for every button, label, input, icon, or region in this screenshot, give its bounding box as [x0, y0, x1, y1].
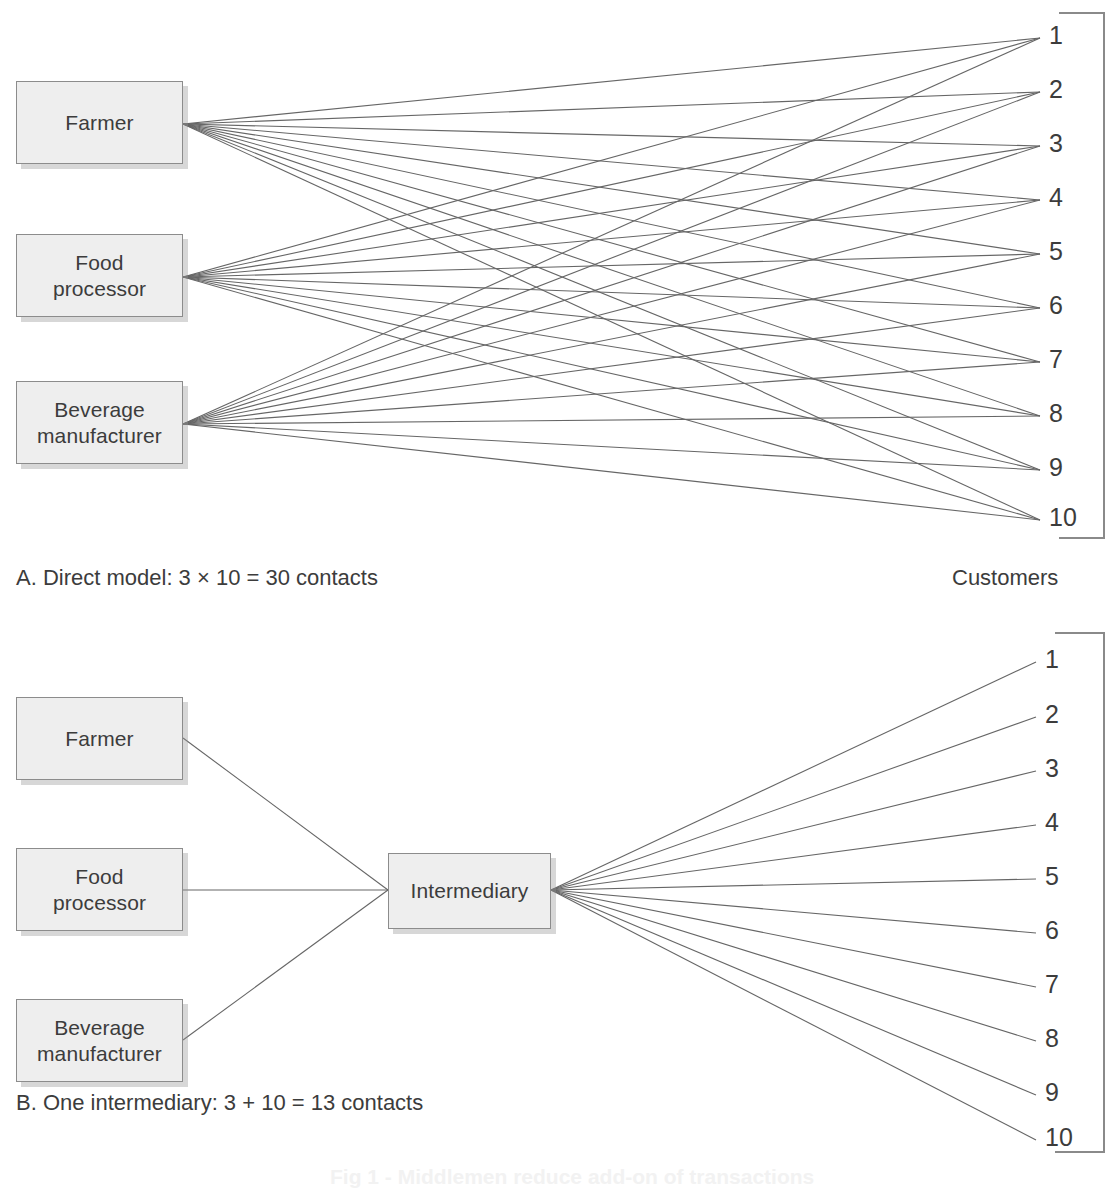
panel-b-line-intermediary-c6 [551, 890, 1036, 933]
panel-b-line-intermediary-c10 [551, 890, 1036, 1140]
panel-a-node-farmer[interactable]: Farmer [16, 81, 183, 164]
panel-b-node-farmer[interactable]: Farmer [16, 697, 183, 780]
panel-a-caption: A. Direct model: 3 × 10 = 30 contacts [16, 565, 378, 591]
panel-b-line-intermediary-c3 [551, 771, 1036, 890]
panel-b-line-p3-intermediary [183, 890, 388, 1040]
panel-b-line-p1-intermediary [183, 738, 388, 890]
node-label: Food processor [53, 864, 146, 915]
node-label: Beverage manufacturer [37, 397, 162, 448]
node-label: Beverage manufacturer [37, 1015, 162, 1066]
panel-a-line-p1-c9 [183, 124, 1040, 470]
panel-b-line-intermediary-c2 [551, 717, 1036, 890]
panel-b-node-food-processor[interactable]: Food processor [16, 848, 183, 931]
panel-b-customer-3[interactable]: 3 [1045, 754, 1059, 783]
panel-a-line-p2-c1 [183, 38, 1040, 277]
panel-b-customer-1[interactable]: 1 [1045, 645, 1059, 674]
customers-label: Customers [952, 565, 1058, 591]
node-label: Intermediary [411, 878, 529, 904]
panel-b-customer-bracket [1055, 633, 1104, 1152]
panel-a-line-p3-c4 [183, 200, 1040, 424]
panel-a-customer-5[interactable]: 5 [1049, 237, 1063, 266]
panel-a-line-p1-c7 [183, 124, 1040, 362]
panel-a-line-p2-c6 [183, 277, 1040, 308]
node-label: Food processor [53, 250, 146, 301]
panel-b-line-intermediary-c9 [551, 890, 1036, 1095]
panel-b-caption: B. One intermediary: 3 + 10 = 13 contact… [16, 1090, 423, 1116]
panel-b-customer-10[interactable]: 10 [1045, 1123, 1073, 1152]
panel-a-line-p2-c7 [183, 277, 1040, 362]
panel-a-connection-lines [183, 38, 1040, 520]
figure-title-footnote: Fig 1 - Middlemen reduce add-on of trans… [330, 1165, 814, 1189]
panel-a-line-p1-c8 [183, 124, 1040, 416]
panel-a-customer-2[interactable]: 2 [1049, 75, 1063, 104]
panel-a-line-p1-c6 [183, 124, 1040, 308]
panel-a-customer-10[interactable]: 10 [1049, 503, 1077, 532]
panel-a-customer-8[interactable]: 8 [1049, 399, 1063, 428]
node-label: Farmer [65, 110, 133, 136]
panel-a-node-food-processor[interactable]: Food processor [16, 234, 183, 317]
node-label: Farmer [65, 726, 133, 752]
panel-a-customer-3[interactable]: 3 [1049, 129, 1063, 158]
panel-b-customer-4[interactable]: 4 [1045, 808, 1059, 837]
panel-a-customer-7[interactable]: 7 [1049, 345, 1063, 374]
panel-b-node-beverage-manufacturer[interactable]: Beverage manufacturer [16, 999, 183, 1082]
panel-a-line-p3-c3 [183, 146, 1040, 424]
panel-a-customer-bracket [1059, 13, 1104, 538]
panel-a-customer-4[interactable]: 4 [1049, 183, 1063, 212]
panel-a-line-p2-c8 [183, 277, 1040, 416]
panel-b-customer-8[interactable]: 8 [1045, 1024, 1059, 1053]
panel-a-line-p1-c1 [183, 38, 1040, 124]
panel-a-node-beverage-manufacturer[interactable]: Beverage manufacturer [16, 381, 183, 464]
panel-a-line-p3-c7 [183, 362, 1040, 424]
panel-a-customer-6[interactable]: 6 [1049, 291, 1063, 320]
panel-a-line-p2-c9 [183, 277, 1040, 470]
panel-b-customer-9[interactable]: 9 [1045, 1078, 1059, 1107]
panel-b-connection-lines [183, 662, 1036, 1140]
panel-a-line-p3-c8 [183, 416, 1040, 424]
panel-a-line-p3-c9 [183, 424, 1040, 470]
panel-b-customer-6[interactable]: 6 [1045, 916, 1059, 945]
panel-b-line-intermediary-c7 [551, 890, 1036, 987]
panel-b-customer-2[interactable]: 2 [1045, 700, 1059, 729]
panel-b-customer-5[interactable]: 5 [1045, 862, 1059, 891]
panel-b-line-intermediary-c8 [551, 890, 1036, 1041]
panel-b-line-intermediary-c1 [551, 662, 1036, 890]
panel-a-line-p3-c10 [183, 424, 1040, 520]
panel-b-node-intermediary[interactable]: Intermediary [388, 853, 551, 929]
panel-b-customer-7[interactable]: 7 [1045, 970, 1059, 999]
panel-a-customer-1[interactable]: 1 [1049, 21, 1063, 50]
panel-a-line-p1-c10 [183, 124, 1040, 520]
panel-a-customer-9[interactable]: 9 [1049, 453, 1063, 482]
